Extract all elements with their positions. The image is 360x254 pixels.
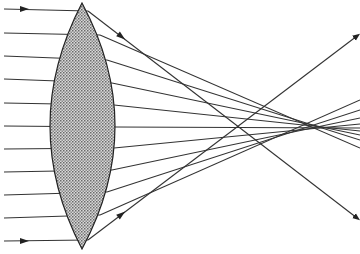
incident-ray bbox=[4, 240, 88, 241]
refracted-ray bbox=[88, 11, 357, 218]
refracted-ray bbox=[112, 118, 360, 170]
refracted-ray bbox=[100, 35, 360, 148]
lens-ray-diagram bbox=[0, 0, 360, 254]
arrowhead-icon bbox=[20, 238, 29, 244]
incident-ray bbox=[4, 9, 88, 11]
arrowhead-icon bbox=[20, 6, 29, 12]
